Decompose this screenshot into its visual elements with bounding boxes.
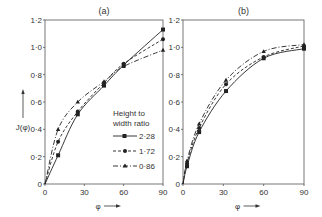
x-tick-label: 60 bbox=[119, 188, 128, 197]
legend-label: 2·28 bbox=[139, 132, 156, 141]
legend-title-line2: width ratio bbox=[112, 119, 150, 128]
triangle-marker-icon bbox=[197, 122, 201, 126]
legend-label: 0·86 bbox=[139, 162, 156, 171]
series-line bbox=[183, 46, 304, 184]
panel-title: (b) bbox=[238, 6, 249, 16]
x-tick-label: 0 bbox=[181, 188, 186, 197]
series-line bbox=[45, 30, 163, 184]
y-arrow-head-icon bbox=[21, 89, 24, 94]
x-tick-label: 30 bbox=[80, 188, 89, 197]
square-marker-icon bbox=[161, 28, 165, 32]
series-228 bbox=[183, 47, 306, 184]
x-arrow-head-icon bbox=[116, 204, 121, 207]
y-tick-label: 0·8 bbox=[30, 71, 42, 80]
series-172 bbox=[183, 44, 306, 184]
x-tick-label: 30 bbox=[219, 188, 228, 197]
triangle-marker-icon bbox=[123, 164, 128, 168]
y-tick-label: 1·2 bbox=[168, 16, 180, 25]
circle-marker-icon bbox=[224, 82, 228, 86]
y-tick-label: 0·4 bbox=[168, 125, 180, 134]
y-tick-label: 1·0 bbox=[30, 43, 42, 52]
y-tick-label: 0·6 bbox=[30, 98, 42, 107]
circle-marker-icon bbox=[56, 140, 60, 144]
y-tick-label: 1·0 bbox=[168, 43, 180, 52]
triangle-marker-icon bbox=[161, 48, 165, 52]
series-086 bbox=[183, 42, 306, 184]
square-marker-icon bbox=[56, 153, 60, 157]
legend-label: 1·72 bbox=[139, 147, 156, 156]
square-marker-icon bbox=[224, 89, 228, 93]
y-tick-label: 0·8 bbox=[168, 71, 180, 80]
square-marker-icon bbox=[123, 134, 127, 138]
series-line bbox=[183, 45, 304, 184]
circle-marker-icon bbox=[76, 110, 80, 114]
circle-marker-icon bbox=[197, 126, 201, 130]
legend: Height to width ratio 2·28 1·72 0·86 bbox=[112, 109, 156, 171]
x-axis-label: φ bbox=[95, 202, 100, 211]
plot-frame bbox=[183, 20, 304, 184]
x-tick-label: 90 bbox=[159, 188, 168, 197]
circle-marker-icon bbox=[123, 149, 127, 153]
circle-marker-icon bbox=[262, 55, 266, 59]
panel-a: (a)00·20·40·60·81·01·20306090φ bbox=[30, 6, 168, 211]
legend-entry-2-28: 2·28 bbox=[113, 132, 156, 141]
x-tick-label: 90 bbox=[300, 188, 309, 197]
x-axis-label: φ bbox=[235, 202, 240, 211]
y-tick-label: 0·4 bbox=[30, 125, 42, 134]
series-228 bbox=[45, 28, 165, 184]
x-tick-label: 60 bbox=[259, 188, 268, 197]
legend-title-line1: Height to bbox=[113, 109, 146, 118]
legend-entry-0-86: 0·86 bbox=[113, 162, 156, 171]
series-line bbox=[183, 49, 304, 184]
triangle-marker-icon bbox=[224, 78, 228, 82]
y-tick-label: 0·2 bbox=[30, 153, 42, 162]
y-axis-label: J(φ) bbox=[16, 123, 31, 132]
x-tick-label: 0 bbox=[43, 188, 48, 197]
y-axis-label-group: J(φ) bbox=[16, 89, 31, 132]
triangle-marker-icon bbox=[302, 42, 306, 46]
y-tick-label: 1·2 bbox=[30, 16, 42, 25]
legend-entry-1-72: 1·72 bbox=[113, 147, 156, 156]
y-tick-label: 0·2 bbox=[168, 153, 180, 162]
panel-b: (b)00·20·40·60·81·01·20306090φ bbox=[168, 6, 309, 211]
x-arrow-head-icon bbox=[256, 204, 261, 207]
y-tick-label: 0·6 bbox=[168, 98, 180, 107]
circle-marker-icon bbox=[161, 37, 165, 41]
panel-title: (a) bbox=[99, 6, 110, 16]
triangle-marker-icon bbox=[56, 127, 60, 131]
figure: (a)00·20·40·60·81·01·20306090φ (b)00·20·… bbox=[0, 0, 322, 217]
plot-frame bbox=[45, 20, 163, 184]
